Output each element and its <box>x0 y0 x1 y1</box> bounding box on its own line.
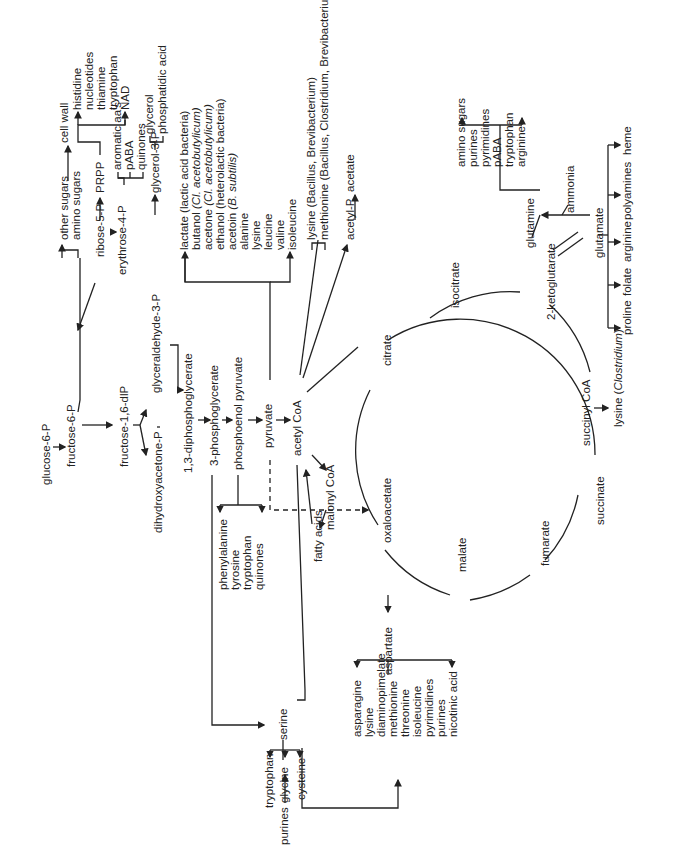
svg-text:arginine: arginine <box>621 221 633 262</box>
node-fructose-1-6-dip: fructose-1,6-dlP <box>118 385 130 467</box>
pep-products: phenylalanine tyrosine tryptophan quinon… <box>217 519 265 590</box>
node-1-3-diphosphoglycerate: 1,3-diphosphoglycerate <box>182 353 194 473</box>
node-acetate: acetate <box>344 154 356 192</box>
svg-text:isoleucine: isoleucine <box>286 199 298 250</box>
svg-text:alanine: alanine <box>238 213 250 250</box>
svg-text:lysine: lysine <box>363 708 375 737</box>
svg-text:pABA: pABA <box>123 140 135 170</box>
node-glutamine: glutamine <box>524 198 536 248</box>
node-lysine-clostridium: lysine (Clostridium) <box>612 329 624 427</box>
node-prpp: PRPP <box>94 161 106 193</box>
svg-text:tryptophan: tryptophan <box>107 56 119 110</box>
svg-text:tryptophan: tryptophan <box>241 536 253 590</box>
node-ribose-5-p: ribose-5-P <box>94 204 106 257</box>
svg-text:nicotinic acid: nicotinic acid <box>447 671 459 737</box>
node-phosphatidic-acid: phosphatidic acid <box>156 45 168 134</box>
node-serine: serine <box>277 709 289 740</box>
svg-text:succinyl CoA: succinyl CoA <box>580 379 592 446</box>
node-fructose-6-p: fructose-6-P <box>65 404 77 467</box>
svg-text:proline: proline <box>621 300 633 335</box>
node-glutamate: glutamate <box>593 207 605 258</box>
erythrose-products: aromatic aa's pABA quinones <box>111 102 147 170</box>
svg-text:isoleucine: isoleucine <box>411 686 423 737</box>
node-lysine-bacillus: lysine (Bacillus, Brevibacterium) <box>305 77 317 240</box>
svg-text:heme: heme <box>621 126 633 155</box>
svg-text:oxaloacetate: oxaloacetate <box>381 478 393 543</box>
node-3-phosphoglycerate: 3-phosphoglycerate <box>208 365 220 466</box>
node-ammonia: ammonia <box>564 165 576 213</box>
svg-text:acetoin (B. subtilis): acetoin (B. subtilis) <box>226 153 238 250</box>
svg-text:aromatic aa's: aromatic aa's <box>111 102 123 170</box>
prpp-products: histidine nucleotides thiamine tryptopha… <box>71 52 131 110</box>
node-fatty-acids: fatty acids <box>312 510 324 562</box>
svg-text:purines: purines <box>467 129 479 167</box>
pyruvate-products: lactate (lactic acid bacteria) butanol (… <box>178 98 298 250</box>
svg-text:pyrimidines: pyrimidines <box>423 679 435 737</box>
svg-text:succinate: succinate <box>594 476 606 525</box>
node-amino-sugars: amino sugars <box>70 171 82 240</box>
node-glyceraldehyde-3-p: glyceraldehyde-3-P <box>150 294 162 393</box>
glutamine-products: amino sugars purines pyrimidines pABA tr… <box>455 98 527 167</box>
svg-text:asparagine: asparagine <box>351 680 363 737</box>
svg-text:purines: purines <box>435 699 447 737</box>
node-erythrose-4-p: erythrose-4-P <box>116 205 128 275</box>
node-dihydroxyacetone-p: dihydroxyacetone-P <box>152 431 164 533</box>
svg-text:2-ketoglutarate: 2-ketoglutarate <box>545 243 557 320</box>
node-acetyl-coa: acetyl CoA <box>291 400 303 456</box>
svg-text:nucleotides: nucleotides <box>83 52 95 110</box>
svg-text:isocitrate: isocitrate <box>449 262 461 308</box>
svg-text:tryptophan: tryptophan <box>503 113 515 167</box>
node-glycerol-3-p: glycerol-3-P <box>149 131 161 193</box>
node-purines: purines <box>278 807 290 845</box>
svg-text:tyrosine: tyrosine <box>229 550 241 590</box>
svg-text:pABA: pABA <box>491 137 503 167</box>
node-tryptophan-serine: tryptophan <box>263 754 275 808</box>
svg-text:threonine: threonine <box>399 689 411 737</box>
svg-text:lysine: lysine <box>250 221 262 250</box>
svg-text:pyrimidines: pyrimidines <box>479 109 491 167</box>
svg-text:citrate: citrate <box>381 335 393 366</box>
node-other-sugars: other sugars <box>58 176 70 240</box>
node-cysteine: cysteine <box>295 758 307 800</box>
node-methionine-bacillus: methionine (Bacillus, Clostridium, Brevi… <box>318 0 330 240</box>
node-pyruvate: pyruvate <box>262 404 274 448</box>
svg-text:folate: folate <box>621 268 633 296</box>
aspartate-products: asparagine lysine diaminopimelate methio… <box>351 653 459 737</box>
svg-text:thiamine: thiamine <box>95 67 107 110</box>
node-malonyl-coa: malonyl CoA <box>324 464 336 530</box>
svg-text:butanol (Cl. acetobutylicum): butanol (Cl. acetobutylicum) <box>190 107 202 250</box>
svg-text:histidine: histidine <box>71 68 83 110</box>
node-glycine: glycine <box>278 767 290 803</box>
svg-text:arginine: arginine <box>515 126 527 167</box>
node-glycerol: glycerol <box>143 94 155 134</box>
svg-text:ethanol (heterolactic bacteria: ethanol (heterolactic bacteria) <box>214 98 226 250</box>
node-cell-wall: cell wall <box>58 103 70 143</box>
glutamate-products: proline folate arginine polyamines heme <box>621 126 633 335</box>
svg-text:methionine: methionine <box>387 681 399 737</box>
svg-text:leucine: leucine <box>262 214 274 250</box>
node-acetyl-p: acetyl-P <box>344 198 356 240</box>
svg-text:diaminopimelate: diaminopimelate <box>375 653 387 737</box>
metabolic-pathway-diagram: glucose-6-P fructose-6-P fructose-1,6-dl… <box>0 0 695 851</box>
svg-text:phenylalanine: phenylalanine <box>217 519 229 590</box>
svg-text:valine: valine <box>274 220 286 250</box>
node-phosphoenol-pyruvate: phosphoenol pyruvate <box>232 357 244 470</box>
svg-text:quinones: quinones <box>253 543 265 590</box>
svg-text:malate: malate <box>456 537 468 572</box>
svg-text:acetone (Cl. acetobutylicum): acetone (Cl. acetobutylicum) <box>202 104 214 250</box>
node-glucose-6-p: glucose-6-P <box>40 423 52 485</box>
svg-text:lactate (lactic acid bacteria): lactate (lactic acid bacteria) <box>178 110 190 250</box>
svg-text:fumarate: fumarate <box>539 521 551 566</box>
svg-text:amino sugars: amino sugars <box>455 98 467 167</box>
svg-text:polyamines: polyamines <box>621 162 633 220</box>
